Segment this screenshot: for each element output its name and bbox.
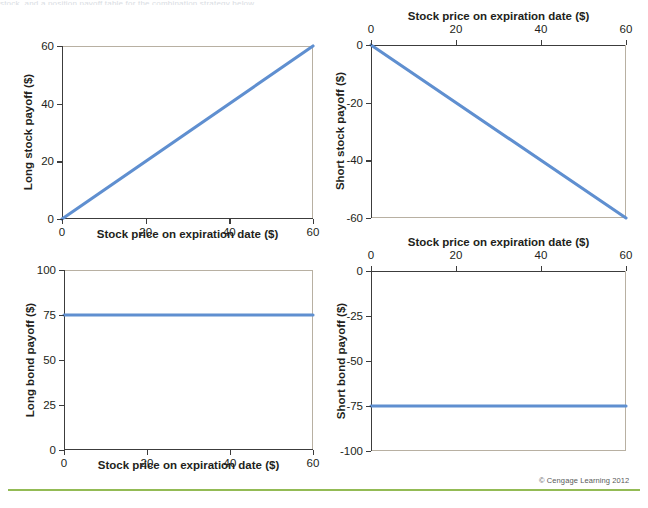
y-tick-short-bond-0 [366, 271, 371, 272]
x-tick-label-short-bond-3: 60 [620, 249, 633, 261]
x-tick-label-short-bond-2: 40 [535, 249, 548, 261]
figure-canvas: stock, and a position payoff table for t… [0, 0, 648, 508]
y-tick-short-bond-3 [366, 406, 371, 407]
x-tick-short-bond-2 [541, 266, 542, 271]
y-tick-short-bond-2 [366, 361, 371, 362]
x-tick-short-bond-0 [371, 266, 372, 271]
y-axis-title-short-bond: Short bond payoff ($) [335, 303, 347, 419]
footer-divider-rule [8, 489, 640, 491]
chart-panel-short-bond: 0-25-50-75-1000204060Stock price on expi… [0, 0, 648, 508]
y-tick-short-bond-1 [366, 316, 371, 317]
x-tick-label-short-bond-1: 20 [450, 249, 463, 261]
y-tick-label-short-bond-4: -100 [329, 445, 363, 457]
copyright-notice: © Cengage Learning 2012 [539, 476, 629, 485]
x-axis-title-short-bond: Stock price on expiration date ($) [331, 236, 648, 248]
x-tick-short-bond-3 [626, 266, 627, 271]
plot-area-short-bond [371, 271, 626, 451]
y-tick-label-short-bond-0: 0 [329, 265, 363, 277]
y-tick-short-bond-4 [366, 451, 371, 452]
x-tick-short-bond-1 [456, 266, 457, 271]
x-tick-label-short-bond-0: 0 [368, 249, 374, 261]
data-series-short-bond [371, 271, 626, 451]
